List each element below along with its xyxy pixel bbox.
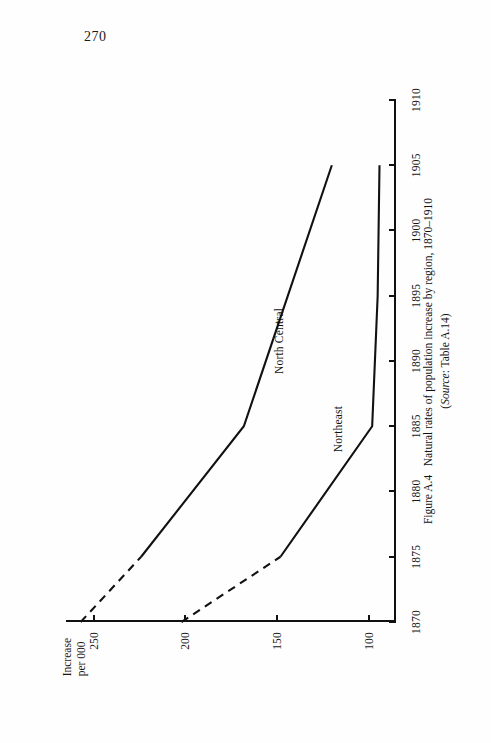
source-open: (: [439, 405, 451, 409]
caption-text: Natural rates of population increase by …: [422, 198, 434, 466]
value-axis-title-line: Increase: [60, 638, 74, 676]
figure-block: Increaseper 000 187018751880188518901895…: [0, 0, 491, 743]
series-line: [281, 165, 380, 557]
series-label: North Central: [273, 308, 285, 374]
source-prefix: Source: [439, 373, 451, 405]
figure-caption: Figure A.4 Natural rates of population i…: [420, 100, 453, 622]
value-axis-title: Increaseper 000: [60, 638, 89, 676]
caption-label: Figure A.4: [422, 475, 434, 524]
source-text: : Table A.14): [439, 313, 451, 373]
value-tick-label: 200: [179, 632, 191, 650]
series-line: [141, 165, 332, 557]
series-line-dashed: [182, 557, 281, 622]
value-tick-label: 100: [363, 632, 375, 650]
value-tick-label: 250: [88, 632, 100, 650]
book-page: 270 Increaseper 000 18701875188018851890…: [0, 0, 491, 743]
series-label: Northeast: [332, 406, 344, 453]
series-layer: [66, 100, 396, 622]
value-tick-label: 150: [271, 632, 283, 650]
chart-plot-area: Increaseper 000 187018751880188518901895…: [66, 100, 396, 622]
series-line-dashed: [81, 557, 141, 622]
